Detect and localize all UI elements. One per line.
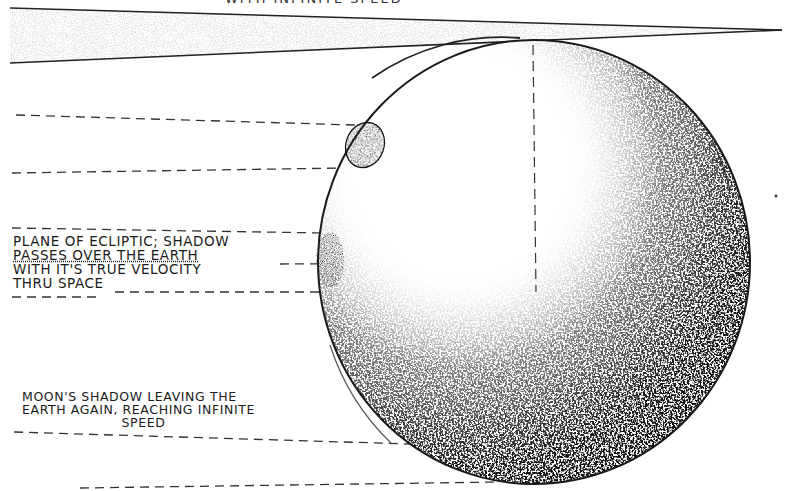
middle-shadow-spot xyxy=(316,232,344,288)
leaving-label-line3: speed xyxy=(22,416,255,429)
diagram-canvas: WITH INFINITE SPEED Plane of ecliptic; s… xyxy=(0,0,787,491)
ecliptic-label-line3: with it's true velocity xyxy=(13,262,229,276)
ecliptic-label-line1: Plane of ecliptic; shadow xyxy=(13,234,229,248)
leaving-label: Moon's shadow leaving the earth again, r… xyxy=(22,390,255,429)
top-caption-partial: WITH INFINITE SPEED xyxy=(225,0,403,6)
ecliptic-label-line4: thru space xyxy=(13,276,229,290)
ecliptic-label-line2: passes over the earth xyxy=(13,248,229,262)
moon-shadow-cone xyxy=(10,8,782,63)
stray-dot xyxy=(775,195,778,198)
ecliptic-label: Plane of ecliptic; shadow passes over th… xyxy=(13,234,229,290)
earth-globe xyxy=(318,37,750,484)
